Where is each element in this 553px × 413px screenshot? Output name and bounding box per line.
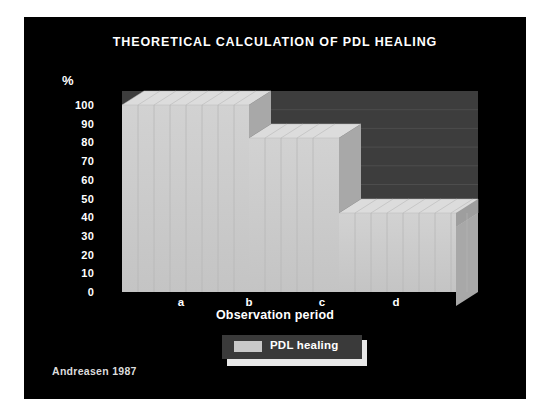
bar-step-d[interactable]: [339, 199, 478, 306]
x-tick-a: a: [171, 296, 191, 308]
slide-canvas: THEORETICAL CALCULATION OF PDL HEALING %…: [24, 17, 526, 399]
slide-frame: THEORETICAL CALCULATION OF PDL HEALING %…: [0, 0, 553, 413]
attribution-text: Andreasen 1987: [52, 365, 137, 377]
bar-step-a[interactable]: [122, 91, 271, 292]
x-tick-b: b: [239, 296, 259, 308]
x-tick-c: c: [312, 296, 332, 308]
legend-label-pdl-healing: PDL healing: [270, 339, 338, 351]
legend-swatch-pdl-healing: [234, 341, 262, 352]
legend[interactable]: PDL healing: [222, 335, 362, 359]
x-axis-title: Observation period: [24, 308, 526, 322]
x-tick-d: d: [386, 296, 406, 308]
